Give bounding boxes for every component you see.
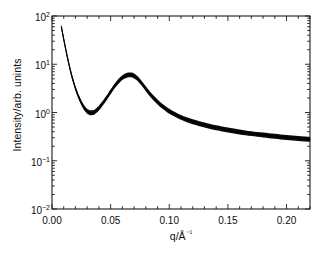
plot-area <box>0 0 325 253</box>
figure-canvas: Intensity/arb. unints 10−210−1100101102 … <box>0 0 325 253</box>
data-curve-group <box>61 24 310 142</box>
intensity-centerline <box>61 27 310 139</box>
intensity-band <box>61 24 310 142</box>
